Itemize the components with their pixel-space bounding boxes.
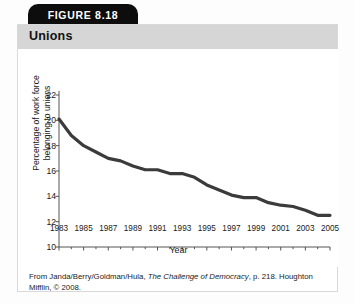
- y-tick-label: 20: [34, 115, 56, 125]
- figure-titlebar: Unions: [18, 25, 337, 49]
- data-series-line: [59, 119, 330, 215]
- citation-source-title: The Challenge of Democracy: [148, 272, 249, 281]
- x-axis-label: Year: [18, 245, 339, 255]
- y-tick-label: 14: [34, 191, 56, 201]
- x-axis-tick-labels: 1983198519871989199119931995199719992001…: [18, 224, 339, 240]
- figure-container: FIGURE 8.18 Unions Percentage of work fo…: [0, 0, 354, 304]
- figure-title: Unions: [29, 29, 73, 43]
- figure-card: Unions Percentage of work force belongin…: [17, 24, 338, 292]
- chart-plot-area: Percentage of work force belonging to un…: [18, 49, 339, 267]
- y-tick-label: 18: [34, 141, 56, 151]
- x-tick-label: 2005: [313, 224, 347, 233]
- y-tick-label: 22: [34, 90, 56, 100]
- figure-number-tab: FIGURE 8.18: [28, 4, 138, 25]
- citation-prefix: From Janda/Berry/Goldman/Hula,: [29, 272, 148, 281]
- figure-citation: From Janda/Berry/Goldman/Hula, The Chall…: [29, 272, 329, 293]
- y-tick-label: 16: [34, 166, 56, 176]
